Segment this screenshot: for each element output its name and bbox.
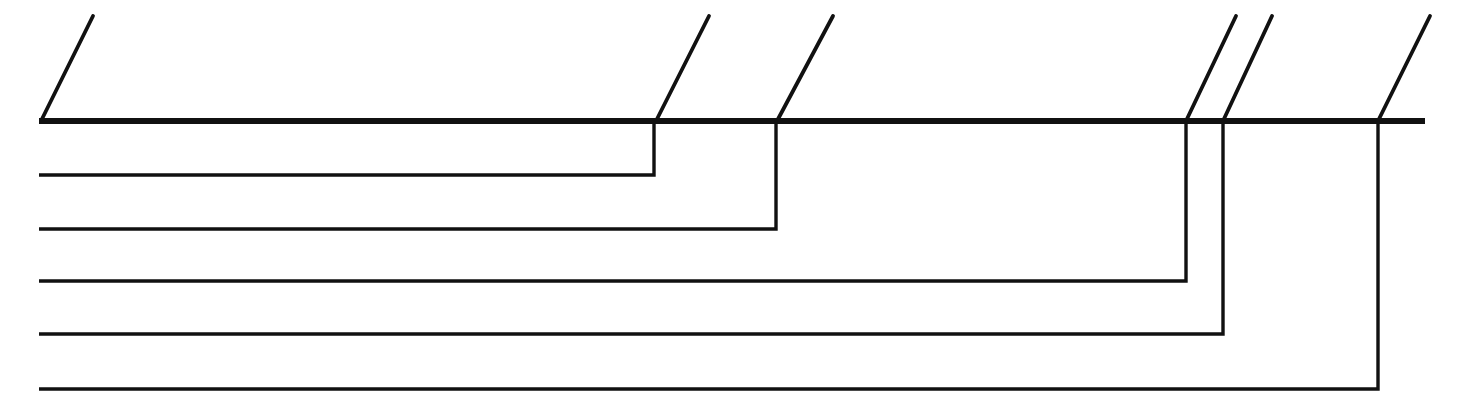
leader-tick-group bbox=[41, 16, 1430, 121]
leader-tick-3 bbox=[777, 16, 833, 121]
branch-1 bbox=[39, 121, 654, 175]
line-drawing-svg bbox=[0, 0, 1467, 410]
branch-3 bbox=[39, 121, 1186, 281]
branch-group bbox=[39, 121, 1378, 389]
diagram-canvas bbox=[0, 0, 1467, 410]
branch-5 bbox=[39, 121, 1378, 389]
leader-tick-1 bbox=[41, 16, 93, 121]
leader-tick-6 bbox=[1378, 16, 1430, 121]
leader-tick-2 bbox=[656, 16, 709, 121]
